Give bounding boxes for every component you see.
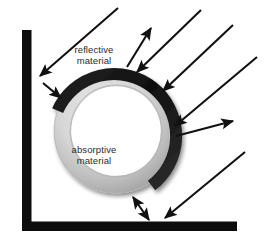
label-reflective-line2: material: [77, 55, 112, 66]
label-reflective-line1: reflective: [74, 44, 113, 55]
arrow-incident-top-center: [137, 10, 201, 72]
frame-vertical-bar: [22, 30, 32, 231]
material-ring: [54, 69, 178, 193]
label-reflective-material: reflective material: [62, 44, 126, 66]
diagram-canvas: [0, 0, 274, 243]
arrow-reflected-right: [176, 121, 233, 136]
diagram-figure: reflective material absorptive material: [0, 0, 274, 243]
arrow-incident-top-right: [163, 25, 233, 91]
label-absorptive-material: absorptive material: [62, 144, 126, 166]
label-absorptive-line1: absorptive: [72, 144, 117, 155]
arrow-bounce-double-bottom: [133, 197, 149, 220]
arrow-reflected-short-left: [43, 83, 61, 98]
label-absorptive-line2: material: [77, 155, 112, 166]
frame-horizontal-bar: [22, 222, 237, 232]
